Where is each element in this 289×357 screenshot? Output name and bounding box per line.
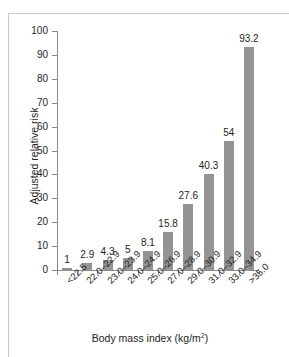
y-axis-tick	[52, 174, 57, 175]
x-axis-title: Body mass index (kg/m2)	[40, 332, 260, 344]
x-axis-tick	[57, 271, 58, 275]
y-axis-tick	[52, 246, 57, 247]
y-axis-tick	[52, 222, 57, 223]
y-axis-tick	[52, 31, 57, 32]
y-axis-tick	[52, 198, 57, 199]
y-axis-tick	[52, 127, 57, 128]
y-axis-tick-label: 90	[18, 50, 48, 60]
bar-value-label: 40.3	[193, 161, 225, 171]
y-axis-tick-label: 80	[18, 74, 48, 84]
y-axis-tick-label: 20	[18, 217, 48, 227]
y-axis-tick-label: 60	[18, 122, 48, 132]
y-axis-line	[57, 31, 58, 271]
bar-value-label: 15.8	[152, 219, 184, 229]
y-axis-tick	[52, 79, 57, 80]
bar-value-label: 54	[213, 128, 245, 138]
x-axis-title-text: Body mass index (kg/m	[92, 332, 201, 344]
y-axis-tick-label: 70	[18, 98, 48, 108]
y-axis-tick	[52, 103, 57, 104]
y-axis-tick-label: 100	[18, 26, 48, 36]
x-axis-title-tail: )	[205, 332, 209, 344]
y-axis-tick-label: 50	[18, 146, 48, 156]
bar-chart: Adjusted relative risk 01020304050607080…	[0, 0, 281, 357]
y-axis-tick-label: 10	[18, 241, 48, 251]
y-axis-tick-label: 30	[18, 193, 48, 203]
bar-value-label: 27.6	[172, 191, 204, 201]
x-axis-tick-label: <22.5	[64, 261, 89, 286]
y-axis-tick	[52, 151, 57, 152]
bar-value-label: 8.1	[132, 238, 164, 248]
bar-value-label: 93.2	[233, 34, 265, 44]
bar	[244, 47, 254, 270]
y-axis-tick	[52, 55, 57, 56]
y-axis-tick-label: 40	[18, 169, 48, 179]
y-axis-tick-label: 0	[18, 265, 48, 275]
